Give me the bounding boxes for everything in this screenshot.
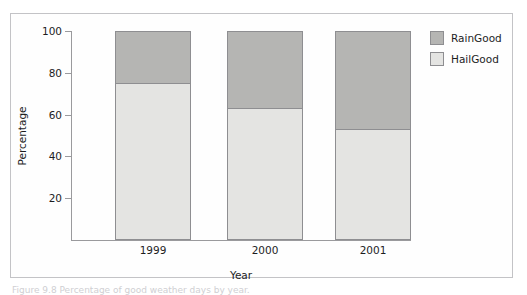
- y-tick-label: 20: [49, 192, 62, 204]
- figure-panel: 100 80 60 40 20 Percentage 1999 2000 200…: [10, 13, 513, 278]
- legend-label: HailGood: [451, 53, 499, 65]
- y-tick-label: 60: [49, 109, 62, 121]
- y-tick-mark: [65, 115, 71, 116]
- bar-group[interactable]: [227, 31, 303, 240]
- legend-item-hailgood[interactable]: HailGood: [430, 48, 508, 69]
- bar-segment-hailgood[interactable]: [335, 129, 411, 240]
- x-axis-line: [71, 240, 411, 241]
- x-tick-label: 2001: [335, 244, 411, 256]
- y-axis-line: [71, 31, 72, 240]
- y-tick-label: 80: [49, 67, 62, 79]
- y-tick-label: 40: [49, 150, 62, 162]
- y-tick-mark: [65, 73, 71, 74]
- figure-caption: Figure 9.8 Percentage of good weather da…: [12, 285, 250, 295]
- bar-group[interactable]: [335, 31, 411, 240]
- bar-group[interactable]: [115, 31, 191, 240]
- y-tick-mark: [65, 156, 71, 157]
- legend: RainGood HailGood: [430, 27, 508, 69]
- legend-swatch-hailgood: [430, 52, 444, 66]
- bar-segment-hailgood[interactable]: [227, 108, 303, 240]
- y-tick-mark: [65, 31, 71, 32]
- legend-swatch-raingood: [430, 31, 444, 45]
- bar-segment-raingood[interactable]: [227, 31, 303, 108]
- x-axis-label: Year: [71, 269, 411, 281]
- y-axis-label: Percentage: [16, 106, 28, 165]
- x-tick-label: 1999: [115, 244, 191, 256]
- plot-area: 100 80 60 40 20 Percentage 1999 2000 200…: [71, 31, 411, 240]
- legend-label: RainGood: [451, 32, 502, 44]
- y-tick-mark: [65, 198, 71, 199]
- x-tick-label: 2000: [227, 244, 303, 256]
- bar-segment-raingood[interactable]: [335, 31, 411, 129]
- legend-item-raingood[interactable]: RainGood: [430, 27, 508, 48]
- bar-segment-raingood[interactable]: [115, 31, 191, 83]
- y-tick-label: 100: [42, 25, 62, 37]
- bar-segment-hailgood[interactable]: [115, 83, 191, 240]
